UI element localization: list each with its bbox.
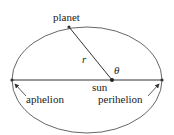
perihelion-label: perihelion	[98, 93, 143, 105]
aphelion-dot	[10, 78, 13, 81]
radius-line	[69, 27, 112, 80]
sun-label: sun	[92, 81, 108, 93]
planet-label: planet	[53, 11, 80, 23]
perihelion-dot	[160, 78, 163, 81]
aphelion-label: aphelion	[26, 93, 64, 105]
perihelion-arrow	[148, 84, 159, 96]
planet-dot	[67, 25, 70, 28]
sun-dot	[110, 78, 114, 82]
aphelion-arrow	[15, 84, 26, 96]
orbit-diagram: planet r θ sun aphelion perihelion	[0, 0, 174, 135]
theta-label: θ	[114, 64, 120, 76]
r-label: r	[82, 53, 87, 65]
